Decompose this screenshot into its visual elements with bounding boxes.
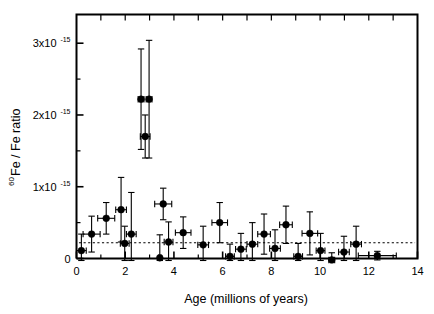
y-axis-tick-labels: 01x10-152x10-153x10-15 xyxy=(33,36,71,264)
x-axis-tick-labels: 02468101214 xyxy=(73,265,423,277)
y-tick-label-1x10: 1x10 xyxy=(33,181,57,193)
data-point-13 xyxy=(198,226,209,260)
x-tick-label-0: 0 xyxy=(73,265,79,277)
figure-container: 02468101214 01x10-152x10-153x10-15 Age (… xyxy=(0,0,434,314)
data-point-4 xyxy=(120,226,129,260)
y-tick-label-exponent: -15 xyxy=(60,180,70,187)
data-point-7 xyxy=(146,40,153,158)
x-tick-label-8: 8 xyxy=(268,265,274,277)
data-point-18 xyxy=(258,214,271,254)
y-tick-label-3x10: 3x10 xyxy=(33,37,57,49)
data-point-15 xyxy=(226,244,235,260)
data-marker xyxy=(156,254,163,261)
data-marker xyxy=(216,219,223,226)
data-point-22 xyxy=(302,212,318,255)
x-tick-label-2: 2 xyxy=(122,265,128,277)
data-marker xyxy=(261,231,268,238)
data-point-20 xyxy=(280,206,293,243)
data-point-12 xyxy=(175,217,191,249)
x-tick-label-6: 6 xyxy=(220,265,226,277)
plot-frame xyxy=(77,15,418,259)
data-marker xyxy=(317,247,324,254)
y-tick-label-2x10: 2x10 xyxy=(33,109,57,121)
data-point-17 xyxy=(247,223,258,261)
data-point-1 xyxy=(83,216,100,252)
data-marker xyxy=(138,96,145,103)
data-point-11 xyxy=(164,222,173,261)
data-marker xyxy=(374,252,381,259)
data-marker xyxy=(306,230,313,237)
data-marker xyxy=(180,229,187,236)
y-axis-title-text: Fe / Fe ratio xyxy=(9,109,23,176)
y-tick-label-0: 0 xyxy=(64,253,70,265)
data-point-23 xyxy=(316,233,325,260)
x-tick-label-10: 10 xyxy=(314,265,326,277)
y-tick-label-exponent: -15 xyxy=(60,108,70,115)
data-point-14 xyxy=(212,203,228,243)
data-marker xyxy=(165,239,172,246)
data-point-2 xyxy=(98,203,115,235)
data-point-9 xyxy=(156,235,163,261)
data-marker xyxy=(249,241,256,248)
x-tick-label-12: 12 xyxy=(363,265,375,277)
data-point-21 xyxy=(294,243,303,260)
data-marker xyxy=(160,201,167,208)
x-tick-label-4: 4 xyxy=(171,265,177,277)
data-point-0 xyxy=(77,234,87,260)
data-point-16 xyxy=(236,233,247,260)
fe60-fe-ratio-scatter-plot: 02468101214 01x10-152x10-153x10-15 Age (… xyxy=(0,0,434,314)
data-marker xyxy=(227,253,234,260)
y-axis-title-superscript: 60 xyxy=(7,177,16,186)
data-marker xyxy=(272,245,279,252)
data-marker xyxy=(146,96,153,103)
data-point-25 xyxy=(339,236,350,260)
data-marker xyxy=(142,133,149,140)
data-marker xyxy=(341,249,348,256)
y-axis-title: 60 Fe / Fe ratio xyxy=(7,109,23,186)
data-marker xyxy=(103,215,110,222)
data-point-24 xyxy=(328,253,335,264)
data-marker xyxy=(353,241,360,248)
y-tick-label-exponent: -15 xyxy=(60,36,70,43)
data-marker xyxy=(121,240,128,247)
data-points-group xyxy=(77,40,397,263)
data-marker xyxy=(88,231,95,238)
data-point-10 xyxy=(155,188,172,220)
axis-frame xyxy=(77,15,418,259)
data-marker xyxy=(78,247,85,254)
data-marker xyxy=(295,253,302,260)
data-marker xyxy=(238,246,245,253)
data-marker xyxy=(328,257,335,264)
x-axis-title: Age (millions of years) xyxy=(184,292,308,306)
data-marker xyxy=(283,221,290,228)
data-marker xyxy=(118,206,125,213)
x-tick-label-14: 14 xyxy=(411,265,423,277)
data-marker xyxy=(128,231,135,238)
data-marker xyxy=(200,241,207,248)
